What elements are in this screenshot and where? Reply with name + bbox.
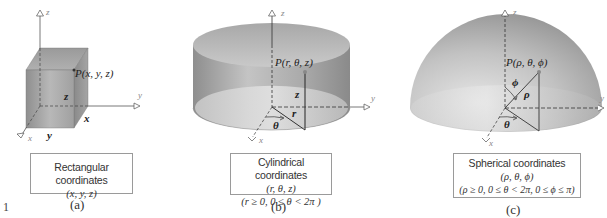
z-axis-label: z bbox=[45, 7, 50, 17]
y-axis-arrow-icon bbox=[364, 104, 370, 110]
point-p bbox=[537, 70, 541, 74]
figure-number: 1 bbox=[3, 200, 9, 215]
point-p-label: P(x, y, z) bbox=[74, 67, 114, 80]
dim-z-label: z bbox=[294, 88, 300, 100]
point-p bbox=[303, 70, 307, 74]
dim-theta-label: θ bbox=[273, 119, 279, 131]
panel-b-cylindrical: z y x P(r, θ, z) z r θ bbox=[193, 8, 375, 145]
sub-label-b: (b) bbox=[271, 199, 286, 215]
dim-phi-label: ϕ bbox=[512, 76, 519, 88]
sub-label-c: (c) bbox=[506, 202, 520, 218]
y-axis-label: y bbox=[137, 90, 142, 100]
y-axis-label: y bbox=[370, 93, 375, 103]
caption-title: Spherical coordinates bbox=[454, 157, 580, 170]
caption-box-rectangular: Rectangular coordinates (x, y, z) bbox=[30, 153, 133, 194]
sub-label-a: (a) bbox=[70, 197, 84, 213]
caption-title: Cylindrical coordinates bbox=[231, 156, 331, 182]
dim-z-label: z bbox=[63, 90, 69, 102]
caption-line: (r, θ, z) bbox=[231, 182, 331, 195]
caption-title: Rectangular coordinates bbox=[31, 161, 132, 187]
caption-line: (ρ ≥ 0, 0 ≤ θ < 2π, 0 ≤ ϕ ≤ π) bbox=[454, 183, 580, 196]
panel-c-spherical: z y x P(ρ, θ, ϕ) ϕ ρ θ bbox=[410, 7, 604, 148]
z-axis-arrow-icon bbox=[37, 10, 44, 16]
z-axis-label: z bbox=[512, 7, 517, 17]
dim-y-label: y bbox=[45, 129, 52, 141]
z-axis-arrow-icon bbox=[502, 10, 509, 16]
point-p-label: P(r, θ, z) bbox=[274, 56, 313, 69]
y-axis-label: y bbox=[599, 93, 604, 103]
y-axis-arrow-icon bbox=[134, 103, 140, 109]
caption-box-spherical: Spherical coordinates (ρ, θ, ϕ) (ρ ≥ 0, … bbox=[453, 153, 581, 198]
dim-r-label: r bbox=[292, 107, 297, 119]
caption-box-cylindrical: Cylindrical coordinates (r, θ, z) (r ≥ 0… bbox=[230, 153, 332, 195]
dim-x-label: x bbox=[83, 112, 90, 124]
caption-line: (ρ, θ, ϕ) bbox=[454, 170, 580, 183]
x-axis-label: x bbox=[258, 135, 263, 145]
point-p-label: P(ρ, θ, ϕ) bbox=[505, 56, 548, 69]
dim-theta-label: θ bbox=[504, 118, 510, 130]
panel-a-rectangular: z y x P(x, y, z) z x y bbox=[17, 7, 142, 143]
x-axis-label: x bbox=[27, 133, 32, 143]
x-axis-label: x bbox=[488, 138, 493, 148]
x-axis-arrow-icon bbox=[17, 133, 24, 138]
z-axis-label: z bbox=[280, 8, 285, 18]
dim-rho-label: ρ bbox=[523, 88, 530, 100]
z-axis-arrow-icon bbox=[269, 10, 276, 16]
x-axis-arrow-icon bbox=[248, 137, 256, 141]
cylinder-top bbox=[193, 23, 350, 67]
